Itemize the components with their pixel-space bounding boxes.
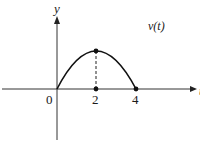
x-axis-label: t <box>199 84 200 97</box>
plot-area <box>0 0 200 146</box>
point-x2 <box>94 87 99 92</box>
y-axis-label: y <box>54 2 60 15</box>
point-x4 <box>134 87 139 92</box>
tick-label-2: 2 <box>92 93 99 106</box>
x-axis-arrow-icon <box>190 86 197 92</box>
origin-label: 0 <box>46 93 53 106</box>
curve-label: v(t) <box>148 20 165 32</box>
peak-point <box>94 49 99 54</box>
tick-label-4: 4 <box>132 93 139 106</box>
y-axis-arrow-icon <box>54 16 60 24</box>
